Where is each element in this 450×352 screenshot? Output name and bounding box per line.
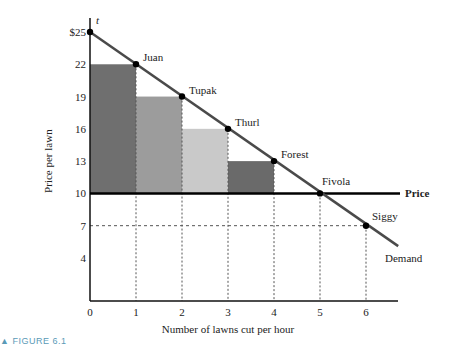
y-axis-title: Price per lawn <box>42 129 54 193</box>
data-point <box>179 93 185 99</box>
point-label: Thurl <box>235 116 259 128</box>
x-tick-label: 4 <box>271 306 277 318</box>
y-tick-label: 10 <box>75 187 87 199</box>
y-tick-label: 7 <box>81 220 87 232</box>
y-tick-label: 4 <box>81 252 87 264</box>
surplus-bar <box>182 129 228 194</box>
figure-caption: ▲ FIGURE 6.1 <box>0 336 66 346</box>
data-point <box>225 126 231 132</box>
y-tick-label: 22 <box>75 58 86 70</box>
y-tick-label: 19 <box>75 91 87 103</box>
y-tick-label: $25 <box>70 26 87 38</box>
x-tick-label: 3 <box>225 306 231 318</box>
data-point <box>363 222 369 228</box>
point-label: Juan <box>143 51 164 63</box>
point-label: Forest <box>281 148 309 160</box>
data-point <box>87 29 93 35</box>
price-label: Price <box>405 187 430 199</box>
x-axis-title: Number of lawns cut per hour <box>162 323 295 335</box>
consumer-surplus-chart: tJuanTupakThurlForestFivolaSiggyPriceDem… <box>0 0 450 336</box>
surplus-bar <box>228 161 274 193</box>
point-label: Tupak <box>189 84 217 96</box>
demand-label: Demand <box>385 252 423 264</box>
data-point <box>317 190 323 196</box>
x-tick-label: 5 <box>317 306 323 318</box>
point-label: t <box>96 14 100 26</box>
y-tick-label: 13 <box>75 155 87 167</box>
triangle-icon: ▲ <box>0 336 9 346</box>
x-tick-label: 2 <box>179 306 185 318</box>
y-tick-label: 16 <box>75 123 87 135</box>
x-tick-label: 0 <box>87 306 93 318</box>
point-label: Fivola <box>322 175 350 187</box>
surplus-bar <box>136 97 182 194</box>
data-point <box>133 61 139 67</box>
data-point <box>271 158 277 164</box>
figure-label: FIGURE 6.1 <box>12 336 66 346</box>
x-tick-label: 6 <box>363 306 369 318</box>
point-label: Siggy <box>372 210 398 222</box>
surplus-bar <box>90 64 136 193</box>
x-tick-label: 1 <box>133 306 139 318</box>
